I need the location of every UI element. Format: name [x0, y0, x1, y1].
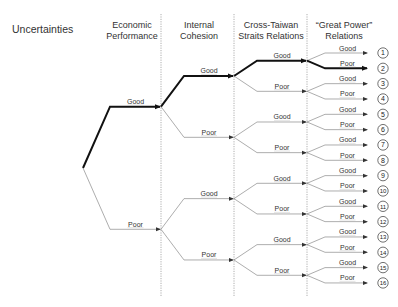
outcome-number: 14	[380, 250, 387, 256]
branch-edge	[161, 199, 233, 230]
branch-label: Good	[200, 67, 217, 74]
outcome-number: 5	[381, 111, 385, 118]
outcome-1: 1	[378, 48, 388, 58]
branch-edge	[307, 91, 367, 99]
branch-label: Good	[339, 106, 356, 113]
scenario-tree-diagram: Uncertainties Economic Performance Inter…	[0, 0, 398, 307]
branch-edge	[307, 268, 367, 276]
branch-edge	[234, 199, 306, 214]
branch-edge	[234, 76, 306, 91]
branch-edge	[234, 260, 306, 275]
outcome-4: 4	[378, 94, 388, 104]
outcome-number: 2	[381, 65, 385, 72]
branch-label: Poor	[340, 213, 355, 220]
outcome-2: 2	[378, 63, 388, 73]
outcome-13: 13	[378, 232, 388, 242]
branch-edge	[307, 176, 367, 184]
outcome-number: 15	[380, 265, 387, 271]
branch-edge	[307, 145, 367, 153]
branch-label: Good	[339, 198, 356, 205]
branch-label: Poor	[275, 83, 290, 90]
branch-label: Poor	[340, 90, 355, 97]
outcome-markers: 12345678910111213141516	[378, 48, 388, 288]
branch-label: Good	[339, 75, 356, 82]
outcome-3: 3	[378, 78, 388, 88]
branch-edge	[161, 229, 233, 260]
branch-edge	[307, 61, 367, 69]
outcome-9: 9	[378, 170, 388, 180]
branch-edge	[307, 183, 367, 191]
branch-edge	[307, 84, 367, 92]
outcome-number: 1	[381, 49, 385, 56]
outcome-15: 15	[378, 262, 388, 272]
branch-edge	[83, 168, 160, 229]
branch-edge	[307, 114, 367, 122]
branch-label: Good	[273, 175, 290, 182]
branch-edge	[307, 153, 367, 161]
outcome-number: 9	[381, 172, 385, 179]
branch-edge	[161, 76, 233, 107]
branch-label: Good	[339, 136, 356, 143]
branch-label: Good	[273, 113, 290, 120]
branch-label: Poor	[340, 152, 355, 159]
branch-label: Poor	[275, 144, 290, 151]
outcome-11: 11	[378, 201, 388, 211]
tree-canvas: GoodPoorGoodPoorGoodPoorGoodPoorGoodPoor…	[0, 0, 398, 307]
branch-edge	[161, 107, 233, 138]
branch-label: Poor	[128, 221, 143, 228]
branch-label: Poor	[275, 267, 290, 274]
branch-edge	[234, 245, 306, 260]
branch-label: Poor	[340, 244, 355, 251]
tree-branches	[83, 53, 367, 283]
outcome-12: 12	[378, 216, 388, 226]
branch-label: Good	[339, 167, 356, 174]
branch-edge	[307, 275, 367, 283]
outcome-16: 16	[378, 278, 388, 288]
branch-label: Good	[127, 98, 144, 105]
outcome-number: 3	[381, 80, 385, 87]
branch-edge	[307, 237, 367, 245]
branch-label: Good	[339, 228, 356, 235]
branch-edge	[234, 122, 306, 137]
branch-edge	[234, 183, 306, 198]
branch-label: Good	[339, 45, 356, 52]
branch-edge	[234, 61, 306, 76]
branch-edge	[307, 245, 367, 253]
outcome-number: 6	[381, 126, 385, 133]
outcome-number: 7	[381, 141, 385, 148]
outcome-number: 16	[380, 280, 387, 286]
branch-label: Good	[200, 190, 217, 197]
branch-label: Poor	[202, 129, 217, 136]
branch-edge	[307, 214, 367, 222]
branch-label: Good	[339, 259, 356, 266]
outcome-5: 5	[378, 109, 388, 119]
outcome-number: 13	[380, 234, 387, 240]
branch-label: Poor	[340, 121, 355, 128]
outcome-10: 10	[378, 186, 388, 196]
branch-label: Good	[273, 236, 290, 243]
outcome-number: 4	[381, 95, 385, 102]
outcome-6: 6	[378, 124, 388, 134]
branch-edge	[307, 122, 367, 130]
branch-edge	[83, 107, 160, 168]
branch-edge	[234, 137, 306, 152]
outcome-14: 14	[378, 247, 388, 257]
branch-edge	[307, 53, 367, 61]
outcome-number: 8	[381, 157, 385, 164]
branch-label: Poor	[202, 251, 217, 258]
outcome-number: 12	[380, 219, 387, 225]
branch-label: Poor	[340, 182, 355, 189]
branch-label: Poor	[340, 60, 355, 67]
branch-label: Good	[273, 52, 290, 59]
outcome-7: 7	[378, 140, 388, 150]
outcome-number: 10	[380, 188, 387, 194]
branch-label: Poor	[275, 205, 290, 212]
branch-label: Poor	[340, 274, 355, 281]
outcome-8: 8	[378, 155, 388, 165]
branch-edge	[307, 206, 367, 214]
outcome-number: 11	[380, 204, 387, 210]
